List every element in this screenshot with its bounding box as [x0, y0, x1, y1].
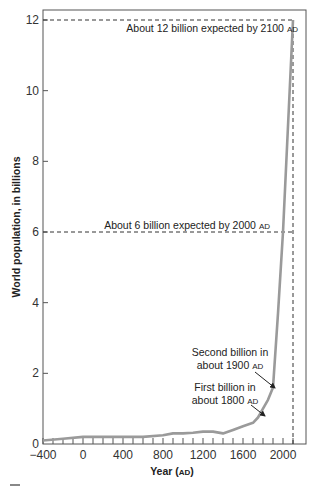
x-axis-title: Year (AD) [150, 465, 194, 477]
x-tick-label: 1200 [190, 448, 217, 462]
annotation-12-billion: About 12 billion expected by 2100 AD [126, 22, 298, 34]
y-tick-label: 10 [26, 84, 40, 98]
annotation-6-billion: About 6 billion expected by 2000 AD [104, 219, 270, 231]
x-tick-label: −400 [29, 448, 56, 462]
y-tick-label: 12 [26, 13, 40, 27]
y-axis-title: World population, in billions [10, 156, 22, 297]
annotation-second-billion: Second billion in [192, 346, 269, 358]
y-tick-label: 2 [32, 366, 39, 380]
y-tick-label: 6 [32, 225, 39, 239]
y-tick-label: 4 [32, 296, 39, 310]
x-tick-label: 2000 [270, 448, 297, 462]
x-tick-label: 0 [80, 448, 87, 462]
x-tick-label: 800 [153, 448, 173, 462]
population-chart: 024681012 −4000400800120016002000 About … [0, 0, 318, 495]
photo-credit-mark [10, 484, 20, 486]
y-tick-label: 8 [32, 154, 39, 168]
x-tick-label: 1600 [230, 448, 257, 462]
x-tick-label: 400 [113, 448, 133, 462]
annotation-first-billion: First billion in [194, 381, 255, 393]
